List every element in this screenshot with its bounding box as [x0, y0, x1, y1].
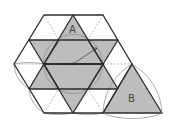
center-point	[72, 63, 75, 66]
label-a: A	[69, 24, 76, 35]
label-b: B	[128, 93, 135, 104]
geometry-diagram: A B	[0, 0, 169, 126]
